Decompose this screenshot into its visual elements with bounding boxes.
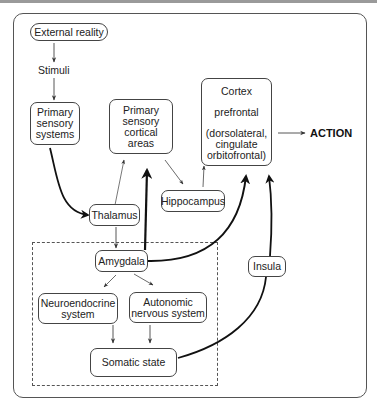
node-thalamus: Thalamus xyxy=(89,204,140,226)
edge-hippocampus-cortex xyxy=(203,166,204,187)
edge-cortical-hippocampus xyxy=(165,160,183,184)
cortex-subtitle: prefrontal xyxy=(214,107,258,118)
node-hippocampus: Hippocampus xyxy=(161,190,225,212)
node-external-reality: External reality xyxy=(30,23,108,41)
edge-amygdala-neuroendocrine xyxy=(104,275,116,287)
node-autonomic-nervous-system: Autonomic nervous system xyxy=(129,292,207,323)
node-neuroendocrine-system: Neuroendocrine system xyxy=(38,293,118,324)
node-primary-sensory-cortical-areas: Primary sensory cortical areas xyxy=(109,99,173,154)
edge-primary-thalamus xyxy=(50,148,88,215)
edge-amygdala-autonomic xyxy=(134,274,153,285)
label-action: ACTION xyxy=(310,127,352,139)
node-somatic-state: Somatic state xyxy=(90,348,177,377)
label-stimuli: Stimuli xyxy=(38,64,70,76)
edge-insula-cortex xyxy=(269,176,271,256)
node-cortex: Cortex prefrontal (dorsolateral, cingula… xyxy=(201,78,272,166)
edge-amygdala-cortical xyxy=(145,170,147,250)
cortex-title: Cortex xyxy=(221,86,252,97)
node-amygdala: Amygdala xyxy=(95,250,148,272)
cortex-detail: (dorsolateral, cingulate orbitofrontal) xyxy=(206,128,267,161)
edge-thalamus-cortical xyxy=(115,160,124,205)
node-insula: Insula xyxy=(248,256,286,277)
node-primary-sensory-systems: Primary sensory systems xyxy=(30,102,80,145)
edge-amygdala-cortex xyxy=(148,176,246,261)
